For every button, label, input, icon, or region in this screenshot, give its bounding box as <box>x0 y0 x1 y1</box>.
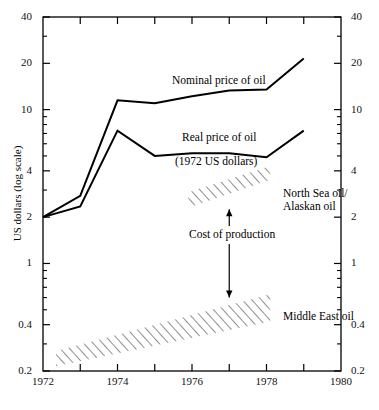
real-price-sublabel: (1972 US dollars) <box>175 155 257 168</box>
x-tick-label-1972: 1972 <box>19 376 67 387</box>
y-tick-label-left-20: 20 <box>0 57 32 68</box>
y-tick-label-left-4: 4 <box>0 165 32 176</box>
cost-of-production-label: Cost of production <box>189 228 275 241</box>
real-price-label: Real price of oil <box>182 131 256 144</box>
y-tick-label-left-0p2: 0.2 <box>0 365 32 376</box>
band-label-middle-east: Middle East oil <box>283 310 354 324</box>
y-tick-label-left-1: 1 <box>0 257 32 268</box>
y-tick-label-right-1: 1 <box>351 257 357 268</box>
oil-price-chart: US dollars (log scale) 0.20.4124102040 0… <box>0 0 379 410</box>
y-tick-label-right-4: 4 <box>351 165 357 176</box>
cost-of-production-arrow <box>226 209 232 297</box>
x-tick-label-1976: 1976 <box>168 376 216 387</box>
y-tick-label-right-2: 2 <box>351 211 357 222</box>
y-tick-label-left-0p4: 0.4 <box>0 319 32 330</box>
y-tick-label-right-20: 20 <box>351 57 362 68</box>
band-label-alaskan: Alaskan oil <box>283 200 336 214</box>
nominal-price-label: Nominal price of oil <box>172 74 266 87</box>
y-tick-label-left-40: 40 <box>0 11 32 22</box>
band-label-north-sea: North Sea oil/ <box>283 187 348 201</box>
y-tick-label-right-10: 10 <box>351 104 362 115</box>
x-tick-label-1980: 1980 <box>317 376 365 387</box>
y-tick-label-right-40: 40 <box>351 11 362 22</box>
bottom-axis-ticks <box>80 364 304 371</box>
top-axis-ticks <box>80 17 304 24</box>
y-tick-label-left-10: 10 <box>0 104 32 115</box>
y-tick-label-right-0p2: 0.2 <box>351 365 365 376</box>
x-tick-label-1978: 1978 <box>243 376 291 387</box>
y-tick-label-left-2: 2 <box>0 211 32 222</box>
y-axis-label: US dollars (log scale) <box>12 134 23 254</box>
left-axis-ticks <box>43 17 50 371</box>
x-tick-label-1974: 1974 <box>94 376 142 387</box>
